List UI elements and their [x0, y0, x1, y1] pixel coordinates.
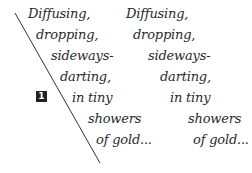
poem-right-line-1: Diffusing,: [126, 7, 188, 21]
poem-left-line-3: sideways-: [51, 49, 113, 63]
diagonal-divider-line: [0, 0, 252, 173]
poem-figure: 1 Diffusing, dropping, sideways- darting…: [0, 0, 252, 173]
figure-label-badge: 1: [36, 91, 47, 102]
poem-right-line-3: sideways-: [148, 49, 210, 63]
poem-right-line-2: dropping,: [133, 28, 195, 42]
poem-left-line-2: dropping,: [36, 28, 98, 42]
poem-left-line-5: in tiny: [72, 91, 112, 105]
poem-left-line-4: darting,: [60, 70, 111, 84]
poem-right-line-6: showers: [188, 112, 241, 126]
poem-right-line-5: in tiny: [170, 91, 210, 105]
poem-left-line-6: showers: [88, 112, 141, 126]
poem-left-line-7: of gold...: [96, 133, 152, 147]
poem-left-line-1: Diffusing,: [28, 7, 90, 21]
poem-right-line-7: of gold...: [193, 133, 249, 147]
poem-right-line-4: darting,: [160, 70, 211, 84]
